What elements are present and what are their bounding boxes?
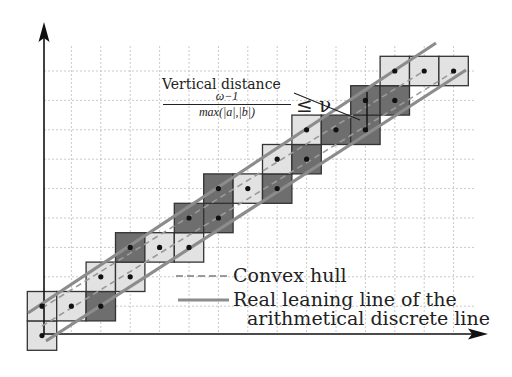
cell-point [422, 68, 427, 73]
fraction-denominator: max(|a|,|b|) [163, 105, 291, 119]
cell-point [98, 304, 103, 309]
cell-point [275, 186, 280, 191]
legend-convex-hull-label: Convex hull [233, 265, 347, 285]
cell-point [69, 304, 74, 309]
legend-leaning-line-label-2: arithmetical discrete line [247, 308, 490, 328]
cell-point [216, 186, 221, 191]
legend-leaning-line-label-1: Real leaning line of the [233, 289, 457, 309]
cell-point [333, 127, 338, 132]
annotation-relation: ≤ ν [296, 93, 331, 117]
cell-point [98, 274, 103, 279]
cell-point [392, 68, 397, 73]
cell-point [128, 245, 133, 250]
cell-point [451, 68, 456, 73]
cell-point [157, 245, 162, 250]
cell-point [186, 245, 191, 250]
cell-point [275, 157, 280, 162]
cell-point [304, 127, 309, 132]
annotation-fraction: ω−1 max(|a|,|b|) [163, 90, 291, 119]
cell-point [304, 157, 309, 162]
cell-point [39, 333, 44, 338]
legend-lines [176, 276, 229, 300]
cell-point [216, 215, 221, 220]
cell-point [392, 98, 397, 103]
cell-point [128, 274, 133, 279]
cell-point [39, 304, 44, 309]
cell-point [186, 215, 191, 220]
fraction-numerator: ω−1 [163, 90, 291, 105]
cell-point [245, 186, 250, 191]
